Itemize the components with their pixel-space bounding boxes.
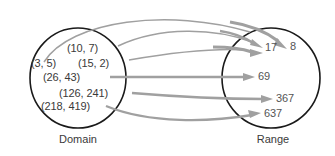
arrow-path-218-419-to-637 [106, 106, 252, 120]
domain-element-3-5: (3, 5) [31, 58, 56, 69]
domain-caption: Domain [48, 134, 108, 145]
arrow-path-3-5-to-8 [44, 20, 250, 62]
domain-element-126-241: (126, 241) [59, 88, 108, 99]
arrowhead-to-69 [243, 73, 255, 81]
arrowhead-to-637 [248, 110, 261, 118]
range-element-637: 637 [264, 108, 282, 119]
range-element-69: 69 [258, 71, 270, 82]
domain-element-218-419: (218, 419) [41, 101, 90, 112]
range-caption: Range [243, 134, 303, 145]
domain-element-10-7: (10, 7) [67, 43, 98, 54]
range-element-17: 17 [265, 42, 277, 53]
range-element-8: 8 [290, 41, 296, 52]
domain-element-26-43: (26, 43) [43, 72, 80, 83]
arrowhead-to-367 [261, 95, 273, 103]
domain-element-15-2: (15, 2) [78, 58, 109, 69]
arrow-path-126-241-to-367 [132, 93, 264, 99]
range-element-367: 367 [276, 93, 294, 104]
arrowhead-to-17-a [250, 39, 263, 48]
mapping-diagram: (3, 5) (10, 7) (15, 2) (26, 43) (126, 24… [0, 0, 335, 156]
arrowhead-to-17-b [250, 49, 263, 57]
